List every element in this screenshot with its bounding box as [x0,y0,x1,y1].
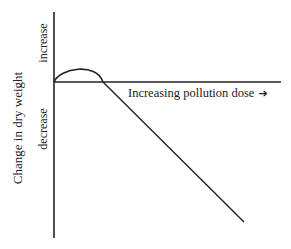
y-axis-label: Change in dry weight [10,71,25,184]
x-axis-label-text: Increasing pollution dose [128,86,255,100]
response-decline [103,82,244,222]
x-axis-label: Increasing pollution dose➔ [128,86,268,100]
y-tick-decrease: decrease [36,108,50,149]
diagram: Change in dry weight increase decrease I… [0,0,291,249]
right-arrow-icon: ➔ [258,87,267,100]
response-hump [54,69,103,82]
y-tick-increase: increase [36,23,50,62]
